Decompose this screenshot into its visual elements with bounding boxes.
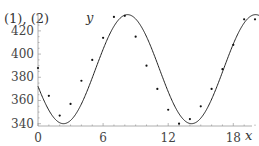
x-tick-label: 6 bbox=[99, 131, 107, 145]
data-point bbox=[91, 59, 93, 61]
data-point bbox=[48, 95, 50, 97]
data-point bbox=[221, 68, 223, 70]
data-point bbox=[113, 16, 115, 18]
data-point bbox=[135, 36, 137, 38]
data-point bbox=[243, 18, 245, 20]
plot-area: 061218340360380400420 bbox=[0, 0, 259, 146]
x-tick-label: 12 bbox=[161, 131, 176, 145]
data-point bbox=[167, 109, 169, 111]
x-tick-label: 18 bbox=[226, 131, 241, 145]
data-point bbox=[102, 37, 104, 39]
y-tick-label: 360 bbox=[11, 93, 34, 107]
data-point bbox=[232, 44, 234, 46]
chart-figure: (1), (2) y x 061218340360380400420 bbox=[0, 0, 259, 146]
data-point bbox=[189, 118, 191, 120]
data-point bbox=[80, 80, 82, 82]
y-tick-label: 400 bbox=[11, 47, 34, 61]
y-tick-label: 380 bbox=[11, 70, 34, 84]
y-tick-label: 420 bbox=[11, 24, 34, 38]
x-tick-label: 0 bbox=[34, 131, 42, 145]
data-point bbox=[145, 65, 147, 67]
data-point bbox=[69, 103, 71, 105]
data-point bbox=[124, 15, 126, 17]
data-point bbox=[200, 105, 202, 107]
data-point bbox=[178, 123, 180, 125]
data-point bbox=[156, 88, 158, 90]
y-tick-label: 340 bbox=[11, 117, 34, 131]
data-point bbox=[254, 18, 256, 20]
data-point bbox=[211, 88, 213, 90]
data-point bbox=[59, 114, 61, 116]
fitted-curve bbox=[38, 15, 259, 124]
data-point bbox=[37, 67, 39, 69]
